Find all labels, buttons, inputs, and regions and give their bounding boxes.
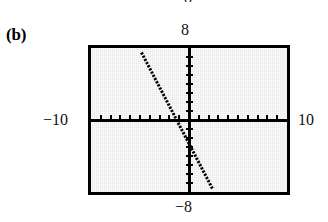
plot-line-svg <box>91 48 287 192</box>
window-label-y-max: 8 <box>181 22 189 38</box>
calculator-screen-inner <box>91 48 287 192</box>
clipped-label-from-figure-above: 8 <box>178 0 198 2</box>
plot-line <box>141 53 213 190</box>
window-label-x-min: −10 <box>43 112 68 128</box>
window-label-y-min: −8 <box>175 199 192 215</box>
figure-part-label: (b) <box>6 26 26 43</box>
calculator-screen-frame <box>88 45 290 195</box>
window-label-x-max: 10 <box>298 112 314 128</box>
